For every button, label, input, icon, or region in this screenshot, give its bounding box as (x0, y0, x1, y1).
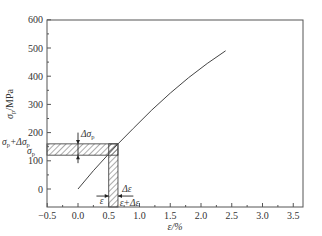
strain-band (109, 144, 118, 207)
hatched-bands (47, 144, 118, 207)
x-tick-label: 2.0 (195, 210, 208, 221)
x-tick-label: 1.5 (164, 210, 177, 221)
y-tick-label: 0 (38, 184, 43, 195)
plot-frame (47, 20, 303, 207)
y-axis-ticks: 0100200300400500600 (28, 14, 51, 194)
x-tick-label: 2.5 (226, 210, 239, 221)
sigma-p-label: σp (27, 146, 35, 157)
x-axis-label: ε/% (167, 221, 182, 232)
delta-eps-label: Δε (121, 184, 132, 194)
y-tick-label: 400 (28, 71, 43, 82)
x-axis-ticks: −0.50.00.51.01.52.02.53.03.5 (38, 203, 299, 221)
y-tick-label: 500 (28, 43, 43, 54)
y-tick-label: 200 (28, 127, 43, 138)
x-tick-label: 1.0 (133, 210, 146, 221)
annotations: Δσpσp+ΔσpσpΔεε+Δεε (2, 129, 140, 208)
x-tick-label: −0.5 (38, 210, 56, 221)
x-tick-label: 3.0 (256, 210, 269, 221)
x-tick-label: 0.0 (72, 210, 85, 221)
y-tick-label: 600 (28, 14, 43, 25)
sigma-p-plus-label: σp+Δσp (2, 137, 30, 148)
y-axis-label: σp/MPa (4, 89, 16, 119)
delta-sigma-label: Δσp (80, 129, 95, 140)
x-tick-label: 3.5 (287, 210, 300, 221)
x-tick-label: 0.5 (103, 210, 116, 221)
stress-strain-curve (78, 51, 226, 189)
eps-label: ε (100, 196, 104, 206)
stress-band (47, 144, 118, 155)
y-tick-label: 300 (28, 99, 43, 110)
eps-plus-label: ε+Δε (120, 198, 140, 208)
stress-strain-chart: −0.50.00.51.01.52.02.53.03.5 01002003004… (0, 0, 322, 236)
y-tick-label: 100 (28, 155, 43, 166)
